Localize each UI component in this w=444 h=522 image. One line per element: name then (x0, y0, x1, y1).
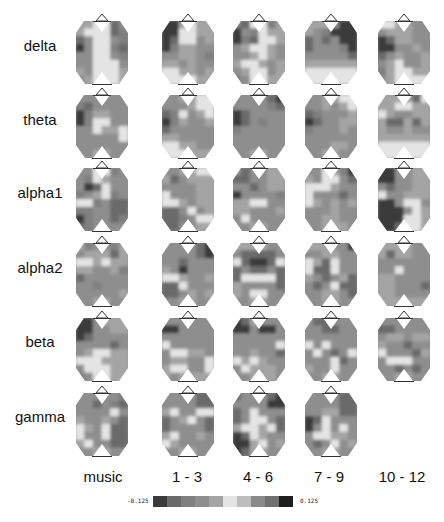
colorbar-segment (237, 496, 251, 507)
topomap-alpha1-0 (74, 159, 130, 233)
nose-marker-icon (182, 386, 194, 393)
nose-marker-icon (253, 311, 265, 318)
topomap-theta-0 (74, 86, 130, 160)
topomap-alpha1-3 (303, 159, 359, 233)
nose-marker-icon (325, 311, 337, 318)
colorbar-segment (181, 496, 195, 507)
nose-marker-icon (253, 236, 265, 243)
colorbar-segment (209, 496, 223, 507)
col-label-4-6: 4 - 6 (218, 468, 298, 486)
colorbar-min-label: -0.125 (127, 497, 149, 505)
topomap-gamma-0 (74, 384, 130, 458)
nose-marker-icon (96, 88, 108, 95)
colorbar-segment (153, 496, 167, 507)
topomap-beta-1 (160, 309, 216, 383)
topomap-delta-4 (376, 12, 432, 86)
nose-marker-icon (398, 236, 410, 243)
colorbar-segment (223, 496, 237, 507)
topomap-alpha1-4 (376, 159, 432, 233)
colorbar-segment (195, 496, 209, 507)
topomap-delta-2 (231, 12, 287, 86)
nose-marker-icon (253, 386, 265, 393)
nose-marker-icon (96, 236, 108, 243)
nose-marker-icon (96, 161, 108, 168)
nose-marker-icon (398, 88, 410, 95)
topomap-beta-3 (303, 309, 359, 383)
topomap-delta-1 (160, 12, 216, 86)
colorbar (153, 496, 293, 507)
colorbar-segment (167, 496, 181, 507)
topomap-alpha2-3 (303, 234, 359, 308)
topomap-gamma-3 (303, 384, 359, 458)
nose-marker-icon (182, 14, 194, 21)
row-label-beta: beta (0, 333, 80, 351)
nose-marker-icon (325, 161, 337, 168)
topomap-theta-1 (160, 86, 216, 160)
topomap-alpha1-2 (231, 159, 287, 233)
nose-marker-icon (96, 386, 108, 393)
nose-marker-icon (253, 88, 265, 95)
nose-marker-icon (253, 14, 265, 21)
nose-marker-icon (325, 386, 337, 393)
topomap-gamma-1 (160, 384, 216, 458)
nose-marker-icon (182, 236, 194, 243)
nose-marker-icon (325, 14, 337, 21)
colorbar-segment (265, 496, 279, 507)
row-label-theta: theta (0, 111, 80, 129)
nose-marker-icon (182, 88, 194, 95)
topomap-gamma-2 (231, 384, 287, 458)
col-label-7-9: 7 - 9 (289, 468, 369, 486)
nose-marker-icon (325, 236, 337, 243)
nose-marker-icon (182, 161, 194, 168)
topomap-alpha2-2 (231, 234, 287, 308)
colorbar-segment (279, 496, 293, 507)
topomap-alpha1-1 (160, 159, 216, 233)
row-label-alpha2: alpha2 (0, 259, 80, 277)
row-label-delta: delta (0, 37, 80, 55)
row-label-alpha1: alpha1 (0, 184, 80, 202)
topomap-beta-2 (231, 309, 287, 383)
col-label-1-3: 1 - 3 (147, 468, 227, 486)
topomap-alpha2-4 (376, 234, 432, 308)
nose-marker-icon (253, 161, 265, 168)
topomap-alpha2-1 (160, 234, 216, 308)
nose-marker-icon (325, 88, 337, 95)
topomap-beta-0 (74, 309, 130, 383)
topomap-alpha2-0 (74, 234, 130, 308)
topomap-beta-4 (376, 309, 432, 383)
col-label-music: music (63, 468, 143, 486)
nose-marker-icon (96, 311, 108, 318)
topomap-theta-4 (376, 86, 432, 160)
nose-marker-icon (398, 311, 410, 318)
row-label-gamma: gamma (0, 408, 80, 426)
topomap-theta-2 (231, 86, 287, 160)
colorbar-segment (251, 496, 265, 507)
nose-marker-icon (182, 311, 194, 318)
topomap-delta-0 (74, 12, 130, 86)
colorbar-max-label: 0.125 (300, 497, 318, 505)
nose-marker-icon (398, 161, 410, 168)
col-label-10-12: 10 - 12 (362, 468, 442, 486)
nose-marker-icon (96, 14, 108, 21)
topomap-theta-3 (303, 86, 359, 160)
nose-marker-icon (398, 14, 410, 21)
topomap-delta-3 (303, 12, 359, 86)
